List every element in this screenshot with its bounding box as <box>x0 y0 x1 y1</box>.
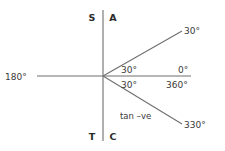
quadrant-label-tangent: T <box>89 131 96 142</box>
label-ray-330-endpoint: 330° <box>184 120 206 130</box>
label-interior-upper-30: 30° <box>121 65 137 75</box>
label-ray-30-endpoint: 30° <box>184 26 200 36</box>
cast-diagram-canvas: S A T C 30° 30° 30° 0° 360° 180° 330° ta… <box>0 0 225 151</box>
quadrant-label-all: A <box>109 12 117 23</box>
label-one-eighty-degrees: 180° <box>5 72 27 82</box>
note-tan-negative: tan –ve <box>120 111 151 121</box>
quadrant-label-sine: S <box>89 12 96 23</box>
cast-diagram: S A T C 30° 30° 30° 0° 360° 180° 330° ta… <box>0 0 225 151</box>
ray-30-degrees <box>103 31 182 76</box>
label-zero-degrees: 0° <box>178 65 188 75</box>
quadrant-label-cosine: C <box>110 131 117 142</box>
label-three-sixty-degrees: 360° <box>166 80 188 90</box>
label-interior-lower-30: 30° <box>121 80 137 90</box>
